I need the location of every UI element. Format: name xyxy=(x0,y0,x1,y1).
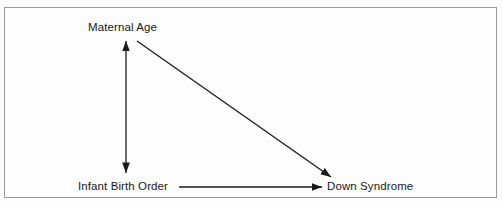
node-label-maternal-age: Maternal Age xyxy=(88,21,157,34)
node-label-down-syndrome: Down Syndrome xyxy=(327,180,413,193)
node-label-infant-birth-order: Infant Birth Order xyxy=(78,180,168,193)
diagram-figure: Maternal Age Infant Birth Order Down Syn… xyxy=(0,0,503,209)
diagram-canvas xyxy=(0,0,503,209)
edge-maternal-age-down-syndrome xyxy=(137,41,331,177)
